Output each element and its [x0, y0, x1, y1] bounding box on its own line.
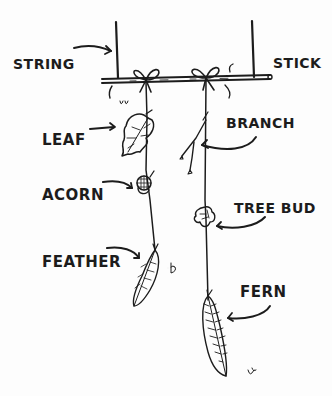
arrow-fern	[228, 306, 270, 319]
tree-bud-drawing	[194, 207, 214, 227]
label-feather: FEATHER	[42, 255, 121, 270]
arrow-tree-bud	[217, 217, 265, 228]
fern-drawing	[203, 290, 227, 376]
mobile-diagram: STRING STICK LEAF BRANCH ACORN TREE BUD …	[0, 0, 332, 396]
stick	[102, 64, 272, 98]
arrows	[74, 46, 270, 321]
label-branch: BRANCH	[226, 116, 295, 130]
left-strand	[146, 82, 155, 250]
label-tree-bud: TREE BUD	[234, 201, 316, 215]
label-fern: FERN	[240, 285, 287, 300]
label-string: STRING	[13, 57, 75, 71]
acorn-drawing	[137, 171, 154, 194]
arrow-leaf	[90, 127, 114, 129]
leaf-drawing	[122, 110, 154, 156]
label-acorn: ACORN	[42, 188, 104, 203]
label-stick: STICK	[273, 56, 321, 70]
label-leaf: LEAF	[42, 133, 86, 148]
arrow-branch	[202, 137, 256, 149]
arrow-acorn	[103, 181, 132, 188]
hanging-strings	[116, 21, 254, 78]
feather-drawing	[133, 244, 158, 306]
